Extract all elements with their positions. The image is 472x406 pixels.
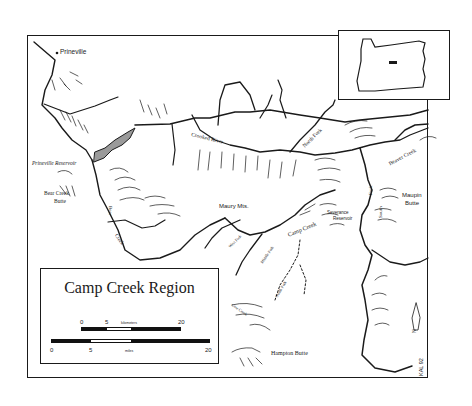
north-branch-2 — [172, 124, 175, 165]
label-maupin-butte-1: Maupin — [402, 192, 422, 198]
mi-tick-5: 5 — [89, 347, 92, 353]
label-bear-creek-butte-2: Butte — [54, 199, 66, 205]
label-severance-2: Reservoir — [333, 217, 352, 222]
beaver-creek — [395, 124, 428, 140]
mi-tick-20: 20 — [205, 347, 212, 353]
map-credit: KAL 92 — [419, 358, 425, 376]
label-prineville: Prineville — [60, 49, 86, 56]
north-fork-river — [290, 100, 335, 152]
miles-scale-bar — [51, 339, 210, 343]
east-tributary — [372, 250, 428, 265]
label-hampton-butte: Hampton Butte — [271, 350, 308, 356]
label-fork-east: Fork — [368, 186, 373, 195]
legend-box: Camp Creek Region 0 5 kilometers 20 0 5 … — [40, 268, 219, 364]
north-arrow-label: N — [412, 329, 417, 333]
mi-segment-3 — [131, 340, 210, 342]
map-title: Camp Creek Region — [41, 279, 218, 297]
label-south-east: South — [378, 206, 383, 218]
camp-creek — [225, 190, 335, 235]
km-tick-0: 0 — [80, 319, 83, 325]
crooked-river-upper — [34, 42, 92, 160]
south-fork-dotted2 — [300, 265, 306, 295]
north-branch-1 — [218, 82, 255, 125]
label-bear-creek-butte-1: Bear Creek — [44, 191, 69, 197]
crooked-river — [135, 110, 428, 125]
km-tick-20: 20 — [178, 319, 185, 325]
km-scale-bar — [81, 327, 181, 331]
oregon-inset-map — [338, 30, 450, 100]
km-unit-label: kilometers — [121, 321, 137, 325]
mi-segment-2 — [91, 340, 130, 342]
label-bear: Bear — [108, 206, 113, 215]
prineville-town-marker — [56, 52, 59, 55]
prineville-reservoir-shape — [94, 128, 135, 162]
mi-segment-1 — [52, 340, 91, 342]
oregon-outline — [357, 39, 425, 91]
mi-unit-label: miles — [125, 349, 133, 353]
km-segment-2 — [107, 328, 132, 330]
label-severance-1: Severance — [327, 211, 349, 216]
label-prineville-reservoir: Prineville Reservoir — [32, 161, 76, 167]
km-segment-1 — [82, 328, 107, 330]
mi-tick-0: 0 — [50, 347, 53, 353]
north-arrow-shape — [412, 303, 420, 330]
middle-fork — [236, 234, 262, 275]
north-branch-3 — [260, 95, 272, 118]
km-segment-3 — [131, 328, 180, 330]
north-ridge — [44, 97, 118, 114]
km-tick-5: 5 — [105, 319, 108, 325]
label-maury-mts: Maury Mts. — [219, 203, 249, 209]
label-maupin-butte-2: Butte — [405, 200, 419, 206]
study-area-marker — [389, 61, 397, 64]
